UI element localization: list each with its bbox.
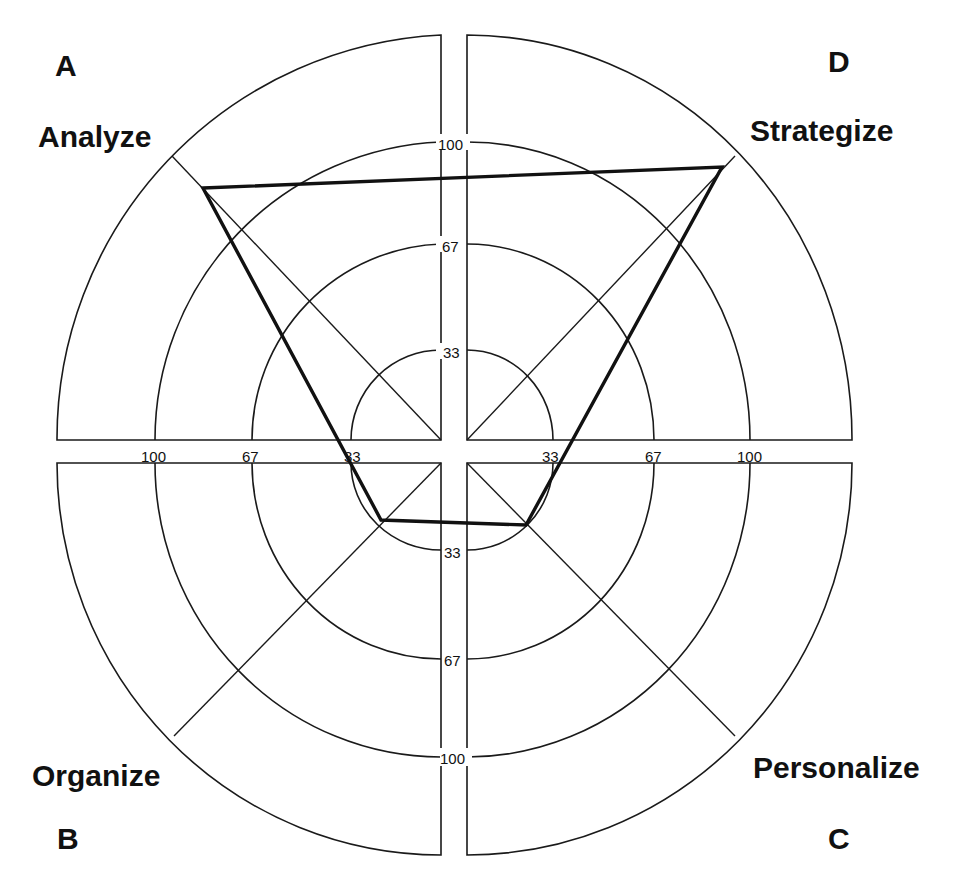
- tick-bottom-100: 100: [440, 750, 465, 767]
- quadrant-label-analyze: Analyze: [38, 120, 151, 153]
- tick-left-100: 100: [141, 448, 166, 465]
- tick-top-67: 67: [442, 238, 459, 255]
- tick-top-100: 100: [438, 136, 463, 153]
- quadrant-letter-c: C: [828, 822, 850, 855]
- tick-right-100: 100: [737, 448, 762, 465]
- quadrant-b-grid: [57, 463, 441, 855]
- quadrant-label-strategize: Strategize: [750, 114, 893, 147]
- quadrant-label-personalize: Personalize: [753, 751, 920, 784]
- tick-bottom-67: 67: [444, 652, 461, 669]
- quadrant-radar-chart: 100 67 33 100 67 33 33 67 100 33 67 100 …: [0, 0, 971, 887]
- tick-bottom-33: 33: [444, 544, 461, 561]
- profile-polygon: [203, 167, 722, 525]
- quadrant-letter-a: A: [55, 49, 77, 82]
- quadrant-d-grid: [467, 35, 852, 440]
- quadrant-letter-d: D: [828, 45, 850, 78]
- tick-left-67: 67: [242, 448, 259, 465]
- ring-tick-labels: 100 67 33 100 67 33 33 67 100 33 67 100: [141, 134, 762, 767]
- tick-right-67: 67: [645, 448, 662, 465]
- tick-top-33: 33: [443, 344, 460, 361]
- quadrant-c-grid: [467, 463, 852, 855]
- tick-right-33: 33: [542, 448, 559, 465]
- quadrant-a-grid: [57, 35, 441, 440]
- quadrant-label-organize: Organize: [32, 759, 160, 792]
- quadrant-letter-b: B: [57, 822, 79, 855]
